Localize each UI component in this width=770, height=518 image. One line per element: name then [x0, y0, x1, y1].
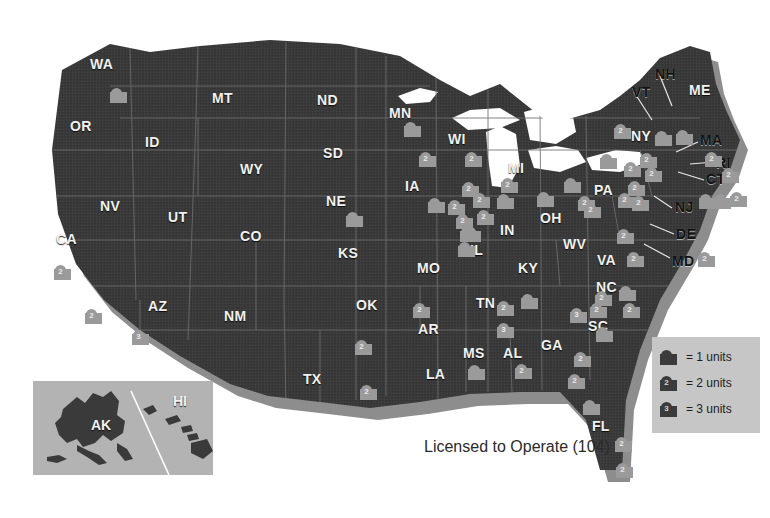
- state-label-nj: NJ: [675, 199, 694, 215]
- marker-dome: [715, 194, 726, 205]
- reactor-marker-ny: 2: [614, 124, 631, 139]
- state-label-mn: MN: [389, 105, 411, 121]
- marker-unit-count: 2: [731, 193, 742, 204]
- reactor-marker-sc: [596, 327, 613, 342]
- marker-unit-count: 2: [86, 310, 97, 321]
- marker-unit-count: 3: [661, 403, 672, 414]
- state-label-az: AZ: [148, 298, 167, 314]
- hawaii-shape: [143, 405, 213, 459]
- marker-dome: [565, 178, 576, 189]
- state-label-ut: UT: [168, 209, 187, 225]
- state-label-co: CO: [240, 228, 262, 244]
- state-label-tn: TN: [476, 295, 495, 311]
- state-label-wy: WY: [240, 161, 263, 177]
- marker-dome: [538, 192, 549, 203]
- reactor-marker-tn: [521, 294, 538, 309]
- reactor-marker-il: 2: [448, 200, 465, 215]
- marker-unit-count: 2: [498, 302, 509, 313]
- marker-unit-count: 2: [661, 377, 672, 388]
- state-label-ma: MA: [700, 132, 722, 148]
- reactor-marker-fl: 2: [616, 463, 633, 478]
- state-label-in: IN: [500, 222, 515, 238]
- state-label-nm: NM: [224, 308, 246, 324]
- marker-unit-count: 2: [569, 375, 580, 386]
- state-label-ms: MS: [463, 345, 485, 361]
- reactor-marker-mn: [404, 122, 421, 137]
- reactor-marker-ny: [676, 130, 693, 145]
- marker-dome: [469, 365, 480, 376]
- marker-dome: [498, 194, 509, 205]
- state-label-id: ID: [145, 134, 160, 150]
- reactor-marker-va: 2: [617, 229, 634, 244]
- reactor-marker-ga: 2: [574, 352, 591, 367]
- marker-unit-count: 2: [502, 179, 513, 190]
- marker-unit-count: 2: [361, 386, 372, 397]
- reactor-marker-ma: 2: [705, 152, 722, 167]
- marker-unit-count: 2: [699, 253, 710, 264]
- marker-unit-count: 2: [619, 194, 630, 205]
- state-label-mi: MI: [508, 160, 524, 176]
- marker-unit-count: 3: [498, 324, 509, 335]
- marker-unit-count: 2: [478, 211, 489, 222]
- marker-unit-count: 2: [414, 304, 425, 315]
- state-label-tx: TX: [303, 371, 322, 387]
- marker-unit-count: 2: [466, 153, 477, 164]
- marker-unit-count: 2: [617, 464, 628, 475]
- state-label-me: ME: [689, 82, 711, 98]
- reactor-marker-ga: 2: [568, 374, 585, 389]
- state-label-ky: KY: [518, 260, 538, 276]
- reactor-marker-mi: [497, 194, 514, 209]
- state-label-pa: PA: [594, 182, 613, 198]
- reactor-marker-sc: 3: [570, 308, 587, 323]
- reactor-marker-ca: 2: [54, 265, 71, 280]
- reactor-marker-il: 2: [477, 210, 494, 225]
- state-label-mt: MT: [212, 90, 233, 106]
- reactor-marker-wi: 2: [465, 152, 482, 167]
- inset-label-ak: AK: [91, 417, 111, 433]
- reactor-marker-tx: 2: [355, 340, 372, 355]
- reactor-marker-icon: 3: [660, 402, 677, 417]
- marker-unit-count: 2: [625, 163, 636, 174]
- inset-label-hi: HI: [173, 393, 187, 409]
- reactor-marker-nc: [619, 286, 636, 301]
- marker-dome: [584, 400, 595, 411]
- state-label-oh: OH: [540, 210, 562, 226]
- reactor-marker-ar: 2: [413, 303, 430, 318]
- reactor-marker-ct: 2: [722, 168, 739, 183]
- legend-label: = 2 units: [686, 376, 732, 390]
- marker-unit-count: 2: [624, 304, 635, 315]
- reactor-marker-va: 2: [627, 252, 644, 267]
- state-label-ks: KS: [338, 245, 358, 261]
- marker-unit-count: 2: [628, 253, 639, 264]
- marker-unit-count: 2: [615, 125, 626, 136]
- reactor-marker-il: [458, 242, 475, 257]
- reactor-marker-pa: 2: [645, 167, 662, 182]
- marker-dome: [405, 122, 416, 133]
- alaska-shape: [47, 391, 133, 465]
- reactor-marker-pa: 2: [584, 203, 601, 218]
- reactor-marker-oh: [564, 178, 581, 193]
- state-label-fl: FL: [592, 418, 610, 434]
- state-label-la: LA: [426, 366, 445, 382]
- marker-dome: [522, 294, 533, 305]
- state-label-ne: NE: [326, 193, 346, 209]
- state-label-ar: AR: [418, 321, 439, 337]
- reactor-marker-ne: [346, 212, 363, 227]
- marker-dome: [111, 88, 122, 99]
- reactor-marker-nc: 2: [623, 303, 640, 318]
- marker-unit-count: 2: [616, 438, 627, 449]
- marker-unit-count: 2: [585, 204, 596, 215]
- marker-unit-count: 2: [420, 153, 431, 164]
- reactor-marker-tx: 2: [360, 385, 377, 400]
- reactor-marker-mn: 2: [419, 152, 436, 167]
- reactor-marker-al: 3: [497, 323, 514, 338]
- state-label-wa: WA: [90, 56, 113, 72]
- reactor-marker-nj: 2: [730, 192, 747, 207]
- marker-unit-count: 3: [133, 331, 144, 342]
- legend-label: = 3 units: [686, 402, 732, 416]
- state-label-nv: NV: [100, 198, 120, 214]
- state-label-ny: NY: [631, 128, 651, 144]
- alaska-hawaii-inset: AKHI: [33, 381, 213, 475]
- state-label-al: AL: [503, 345, 522, 361]
- map-title: Licensed to Operate (104): [424, 438, 610, 456]
